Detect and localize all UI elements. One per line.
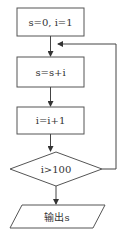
increment-label: i=i+1: [36, 115, 66, 126]
flowchart: s=0, i=1 s=s+i i=i+1 i>100 输出s: [0, 0, 124, 235]
init-label: s=0, i=1: [28, 17, 72, 28]
condition-label: i>100: [41, 164, 72, 175]
accumulate-label: s=s+i: [35, 67, 65, 78]
output-label: 输出s: [44, 211, 69, 223]
